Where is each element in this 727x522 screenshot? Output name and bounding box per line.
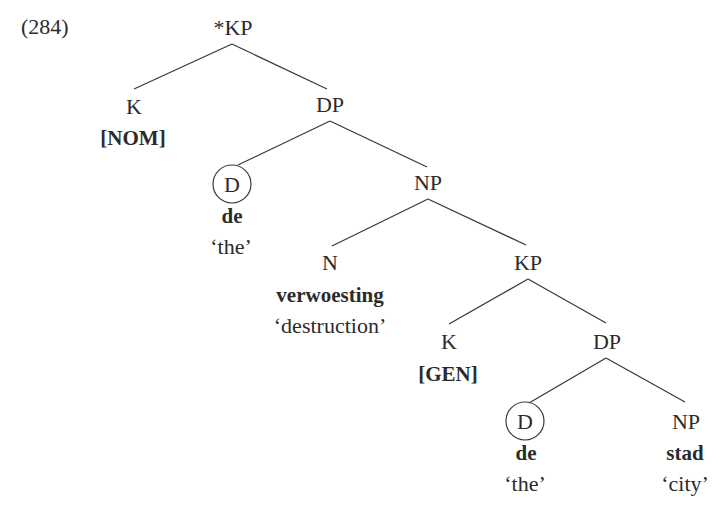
node-k-nom: K — [126, 96, 142, 118]
gloss-the: ‘the’ — [210, 236, 252, 258]
syntax-tree-diagram: (284) *KP K [NOM] DP D de ‘the’ NP N ver… — [0, 0, 727, 522]
word-de: de — [222, 206, 243, 227]
word-de-lower: de — [516, 443, 537, 464]
node-np-lower: NP — [672, 411, 700, 433]
edge-np-n — [332, 199, 428, 246]
edge-dp-np — [330, 121, 427, 167]
feature-nom: [NOM] — [100, 128, 165, 149]
node-dp-lower: DP — [593, 331, 621, 353]
edge-kp2-k-gen — [449, 279, 528, 324]
gloss-destruction: ‘destruction’ — [274, 315, 386, 337]
node-root-kp: *KP — [213, 17, 252, 39]
node-d-circled: D — [224, 174, 240, 196]
word-verwoesting: verwoesting — [276, 285, 383, 306]
node-kp: KP — [514, 252, 542, 274]
edge-dp2-d — [529, 358, 606, 403]
example-number: (284) — [21, 16, 69, 38]
word-stad: stad — [666, 443, 703, 464]
edge-dp2-np — [606, 358, 685, 402]
node-d-circled-lower: D — [517, 411, 533, 433]
edge-kp-dp — [232, 44, 327, 89]
edge-np-kp — [428, 199, 526, 245]
gloss-city: ‘city’ — [661, 473, 709, 495]
edge-kp-k-nom — [134, 44, 232, 89]
node-np: NP — [414, 172, 442, 194]
feature-gen: [GEN] — [418, 364, 478, 385]
gloss-the-lower: ‘the’ — [504, 473, 546, 495]
node-k-gen: K — [441, 331, 457, 353]
node-dp: DP — [316, 94, 344, 116]
edge-dp-d — [238, 121, 330, 165]
edge-kp2-dp — [528, 279, 606, 323]
tree-edges — [0, 0, 727, 522]
node-n: N — [322, 252, 338, 274]
